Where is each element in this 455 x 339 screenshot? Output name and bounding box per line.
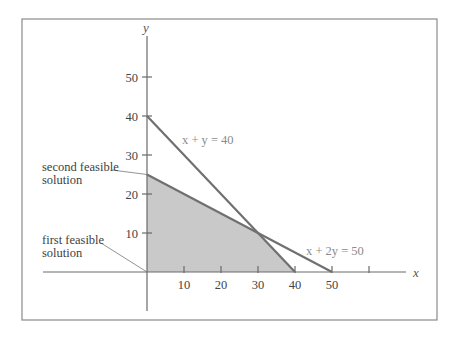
second-feasible-label: second feasible solution (42, 161, 119, 187)
y-tick-label: 20 (126, 188, 139, 202)
x-tick-label: 10 (178, 278, 191, 292)
feasible-region (147, 175, 295, 273)
y-tick-label: 10 (126, 227, 139, 241)
second-feasible-line2: solution (42, 174, 119, 187)
x-tick-label: 30 (252, 278, 265, 292)
x-tick-label: 40 (289, 278, 302, 292)
constraint-label-2: x + 2y = 50 (306, 244, 364, 258)
x-axis-label: x (412, 265, 419, 280)
y-tick-label: 40 (126, 110, 139, 124)
x-tick-label: 50 (326, 278, 339, 292)
constraint-label-1: x + y = 40 (182, 133, 234, 147)
first-feasible-label: first feasible solution (42, 234, 104, 260)
y-axis-label: y (141, 20, 149, 35)
y-tick-label: 30 (126, 149, 139, 163)
first-feasible-leader (101, 243, 147, 272)
first-feasible-line2: solution (42, 247, 104, 260)
y-tick-label: 50 (126, 71, 139, 85)
x-tick-label: 20 (215, 278, 228, 292)
